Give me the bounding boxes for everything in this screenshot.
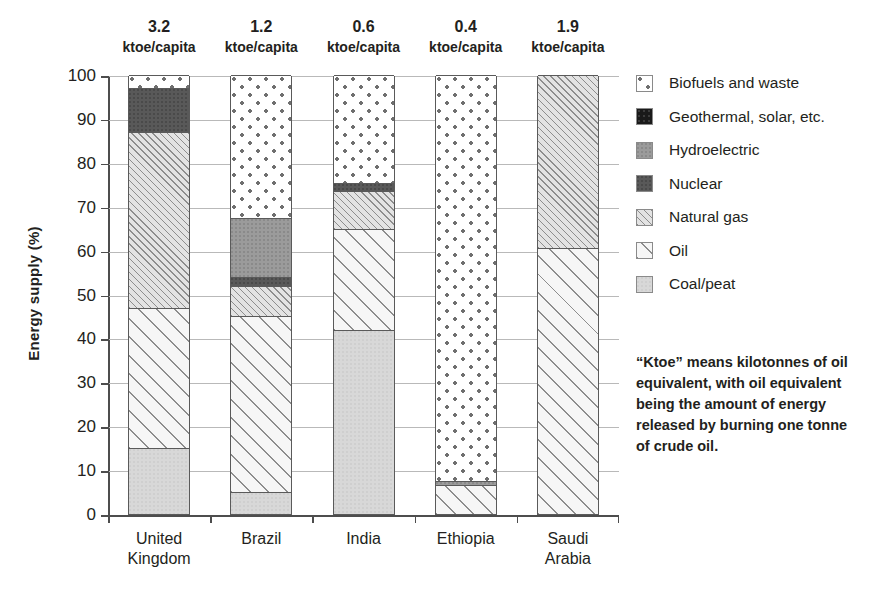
y-axis-tick — [101, 296, 109, 298]
y-axis-tick — [101, 252, 109, 254]
legend-swatch-icon — [636, 142, 653, 159]
legend-item[interactable]: Geothermal, solar, etc. — [636, 108, 872, 126]
y-axis-tick-label: 60 — [77, 242, 96, 262]
y-axis-tick-label: 20 — [77, 417, 96, 437]
y-axis-tick — [101, 471, 109, 473]
legend-swatch-icon — [636, 75, 653, 92]
legend-swatch-icon — [636, 108, 653, 125]
y-axis-tick — [101, 339, 109, 341]
legend-item[interactable]: Coal/peat — [636, 275, 872, 293]
bar-segment-nuclear — [334, 183, 394, 192]
y-axis-tick-label: 90 — [77, 110, 96, 130]
category-label-line: Saudi — [508, 529, 628, 549]
x-axis-tick — [517, 515, 519, 523]
y-axis-tick — [101, 76, 109, 78]
category-label-line: Arabia — [508, 549, 628, 569]
x-axis-tick — [415, 515, 417, 523]
legend-label: Nuclear — [669, 175, 722, 193]
plot-area: 0102030405060708090100 — [108, 76, 619, 516]
chart-root: Energy supply (%) 0102030405060708090100… — [0, 0, 876, 592]
bar-segment-natural-gas — [334, 191, 394, 228]
bar-segment-hydroelectric — [231, 218, 291, 277]
legend: Biofuels and wasteGeothermal, solar, etc… — [636, 74, 872, 309]
bar-segment-biofuels-and-waste — [436, 75, 496, 481]
y-axis-tick — [101, 383, 109, 385]
bar-segment-biofuels-and-waste — [129, 75, 189, 88]
bar-segment-coal-peat — [129, 448, 189, 514]
legend-swatch-icon — [636, 175, 653, 192]
y-axis-tick — [101, 120, 109, 122]
bar-india[interactable] — [333, 76, 395, 515]
bar-segment-hydroelectric — [436, 481, 496, 485]
legend-swatch-icon — [636, 276, 653, 293]
legend-label: Geothermal, solar, etc. — [669, 108, 825, 126]
y-axis-tick — [101, 208, 109, 210]
legend-item[interactable]: Oil — [636, 242, 872, 260]
y-axis-tick-label: 100 — [68, 66, 96, 86]
legend-label: Oil — [669, 242, 688, 260]
y-axis-tick-label: 0 — [87, 505, 96, 525]
x-axis-category-label: SaudiArabia — [508, 529, 628, 569]
bar-segment-coal-peat — [231, 492, 291, 514]
ktoe-unit: ktoe/capita — [508, 38, 628, 57]
bar-segment-oil — [231, 316, 291, 492]
bar-segment-oil — [436, 485, 496, 514]
x-axis-tick — [108, 515, 110, 523]
legend-label: Hydroelectric — [669, 141, 759, 159]
bar-brazil[interactable] — [230, 76, 292, 515]
legend-label: Biofuels and waste — [669, 74, 799, 92]
x-axis-tick — [210, 515, 212, 523]
bar-segment-natural-gas — [231, 286, 291, 317]
ktoe-note: “Ktoe” means kilotonnes of oil equivalen… — [636, 352, 851, 457]
bar-segment-coal-peat — [334, 330, 394, 514]
category-label-line: Kingdom — [99, 549, 219, 569]
x-axis-tick — [312, 515, 314, 523]
legend-label: Natural gas — [669, 208, 748, 226]
bar-saudi-arabia[interactable] — [537, 76, 599, 515]
legend-swatch-icon — [636, 209, 653, 226]
legend-swatch-icon — [636, 242, 653, 259]
ktoe-value: 1.9 — [508, 16, 628, 38]
bar-segment-oil — [129, 308, 189, 448]
y-axis-tick-label: 80 — [77, 154, 96, 174]
bar-segment-nuclear — [231, 277, 291, 286]
bar-segment-biofuels-and-waste — [334, 75, 394, 183]
x-axis-line — [108, 515, 619, 517]
legend-item[interactable]: Nuclear — [636, 175, 872, 193]
y-axis-tick-label: 50 — [77, 286, 96, 306]
legend-item[interactable]: Natural gas — [636, 208, 872, 226]
bar-united-kingdom[interactable] — [128, 76, 190, 515]
bar-segment-natural-gas — [538, 75, 598, 248]
y-axis-tick-label: 30 — [77, 373, 96, 393]
y-axis-tick — [101, 427, 109, 429]
y-axis-tick-label: 70 — [77, 198, 96, 218]
legend-item[interactable]: Biofuels and waste — [636, 74, 872, 92]
legend-label: Coal/peat — [669, 275, 735, 293]
bar-ethiopia[interactable] — [435, 76, 497, 515]
bar-segment-oil — [334, 229, 394, 330]
x-axis-tick — [618, 515, 620, 523]
y-axis-tick-label: 40 — [77, 329, 96, 349]
bar-segment-natural-gas — [129, 132, 189, 308]
legend-item[interactable]: Hydroelectric — [636, 141, 872, 159]
bar-segment-nuclear — [129, 88, 189, 132]
y-axis-title: Energy supply (%) — [25, 179, 42, 409]
bar-segment-biofuels-and-waste — [231, 75, 291, 218]
y-axis-tick — [101, 164, 109, 166]
y-axis-tick-label: 10 — [77, 461, 96, 481]
bar-segment-oil — [538, 248, 598, 514]
ktoe-annotation: 1.9ktoe/capita — [508, 16, 628, 56]
